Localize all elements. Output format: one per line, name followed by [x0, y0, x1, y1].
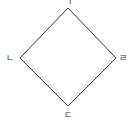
diamond-shape	[20, 8, 116, 106]
vertex-label-bottom: ㄷ	[64, 110, 72, 120]
vertex-label-top: ㄱ	[64, 0, 72, 7]
diamond-diagram: ㄱ ㄹ ㄷ ㄴ	[0, 0, 134, 127]
vertex-label-left: ㄴ	[6, 53, 14, 63]
vertex-label-right: ㄹ	[119, 53, 127, 63]
